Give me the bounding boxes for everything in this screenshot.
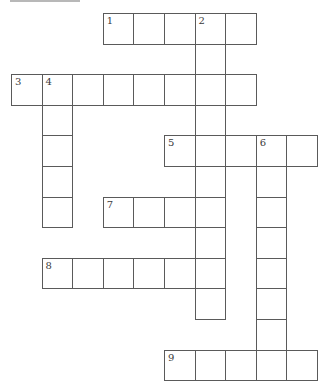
crossword-cell[interactable] xyxy=(164,197,196,229)
clue-number: 5 xyxy=(168,137,174,148)
crossword-cell[interactable] xyxy=(256,288,288,320)
crossword-cell[interactable] xyxy=(195,166,227,198)
clue-number: 8 xyxy=(46,260,52,271)
clue-number: 3 xyxy=(15,76,21,87)
crossword-cell[interactable]: 6 xyxy=(256,135,288,167)
crossword-cell[interactable]: 3 xyxy=(11,74,43,106)
crossword-cell[interactable] xyxy=(256,227,288,259)
crossword-cell[interactable] xyxy=(256,350,288,382)
crossword-cell[interactable] xyxy=(286,135,318,167)
crossword-cell[interactable] xyxy=(164,258,196,290)
crossword-cell[interactable] xyxy=(195,350,227,382)
crossword-cell[interactable]: 8 xyxy=(42,258,74,290)
crossword-cell[interactable] xyxy=(195,74,227,106)
crossword-cell[interactable] xyxy=(225,350,257,382)
crossword-cell[interactable] xyxy=(256,166,288,198)
crossword-cell[interactable] xyxy=(195,44,227,76)
crossword-cell[interactable]: 9 xyxy=(164,350,196,382)
crossword-cell[interactable] xyxy=(195,258,227,290)
crossword-cell[interactable] xyxy=(286,350,318,382)
crossword-cell[interactable] xyxy=(133,258,165,290)
crossword-cell[interactable] xyxy=(133,197,165,229)
crossword-cell[interactable] xyxy=(256,258,288,290)
clue-number: 6 xyxy=(260,137,266,148)
crossword-cell[interactable] xyxy=(42,135,74,167)
crossword-cell[interactable] xyxy=(103,74,135,106)
crossword-cell[interactable] xyxy=(164,13,196,45)
crossword-cell[interactable]: 5 xyxy=(164,135,196,167)
crossword-cell[interactable] xyxy=(133,13,165,45)
crossword-cell[interactable]: 7 xyxy=(103,197,135,229)
crossword-cell[interactable] xyxy=(42,105,74,137)
crossword-cell[interactable] xyxy=(72,74,104,106)
crossword-cell[interactable] xyxy=(195,105,227,137)
crossword-cell[interactable] xyxy=(225,13,257,45)
crossword-cell[interactable] xyxy=(72,258,104,290)
crossword-cell[interactable]: 1 xyxy=(103,13,135,45)
crossword-cell[interactable] xyxy=(256,319,288,351)
crossword-cell[interactable] xyxy=(225,135,257,167)
crossword-cell[interactable] xyxy=(195,135,227,167)
clue-number: 4 xyxy=(46,76,52,87)
crossword-cell[interactable] xyxy=(42,166,74,198)
crossword-cell[interactable] xyxy=(195,197,227,229)
crossword-cell[interactable] xyxy=(225,74,257,106)
crossword-cell[interactable]: 4 xyxy=(42,74,74,106)
clue-number: 9 xyxy=(168,352,174,363)
clue-number: 7 xyxy=(107,199,113,210)
crossword-cell[interactable] xyxy=(256,197,288,229)
clue-number: 1 xyxy=(107,15,113,26)
crossword-grid: 123456789 xyxy=(0,0,327,389)
crossword-cell[interactable]: 2 xyxy=(195,13,227,45)
crossword-cell[interactable] xyxy=(164,74,196,106)
crossword-cell[interactable] xyxy=(195,288,227,320)
crossword-cell[interactable] xyxy=(195,227,227,259)
crossword-cell[interactable] xyxy=(42,197,74,229)
crossword-cell[interactable] xyxy=(133,74,165,106)
clue-number: 2 xyxy=(199,15,205,26)
crossword-cell[interactable] xyxy=(103,258,135,290)
